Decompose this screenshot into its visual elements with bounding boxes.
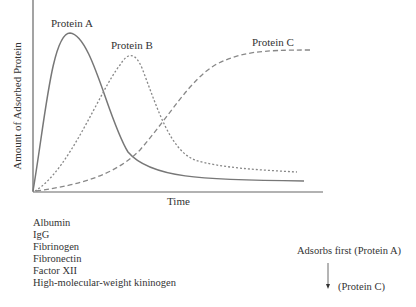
protein-list-item: IgG xyxy=(33,229,176,241)
protein-a-label: Protein A xyxy=(51,17,93,29)
y-axis-label: Amount of Adsorbed Protein xyxy=(11,41,23,171)
x-axis-label: Time xyxy=(167,195,190,207)
protein-list-item: Factor XII xyxy=(33,265,176,277)
protein-list-item: High-molecular-weight kininogen xyxy=(33,277,176,289)
protein-a-curve xyxy=(33,33,304,191)
protein-list-item: Albumin xyxy=(33,217,176,229)
protein-list: Albumin IgG Fibrinogen Fibronectin Facto… xyxy=(33,217,176,289)
protein-list-item: Fibronectin xyxy=(33,253,176,265)
arrow-head-icon xyxy=(326,284,330,289)
adsorbs-first-label: Adsorbs first (Protein A) xyxy=(297,245,401,256)
protein-c-order-label: (Protein C) xyxy=(338,281,385,292)
protein-c-label: Protein C xyxy=(252,36,294,48)
protein-b-curve xyxy=(35,56,297,191)
protein-b-label: Protein B xyxy=(111,39,153,51)
protein-list-item: Fibrinogen xyxy=(33,241,176,253)
